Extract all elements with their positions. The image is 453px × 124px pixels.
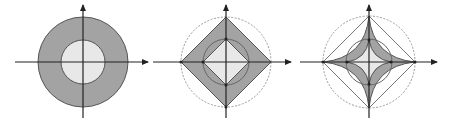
panel-diamond (153, 5, 291, 118)
vertex-dot (322, 61, 325, 64)
panel-astroid (300, 5, 437, 118)
vertex-dot (225, 38, 228, 41)
vertex-dot (202, 61, 205, 64)
vertex-dot (180, 61, 183, 64)
panel-annulus (15, 5, 148, 118)
vertex-dot (414, 61, 417, 64)
vertex-dot (368, 39, 371, 42)
diagram-svg (0, 0, 453, 124)
vertex-dot (368, 83, 371, 86)
vertex-dot (225, 106, 228, 109)
vertex-dot (225, 84, 228, 87)
diagram-canvas (0, 0, 453, 124)
vertex-dot (346, 61, 349, 64)
vertex-dot (390, 61, 393, 64)
